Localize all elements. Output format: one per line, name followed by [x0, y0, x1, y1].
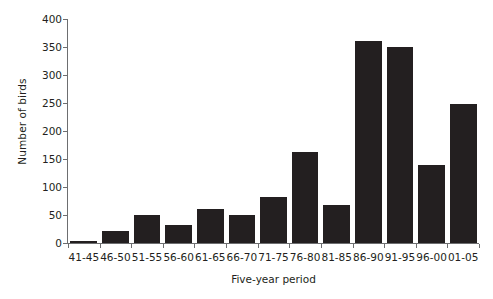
y-axis-tick-label: 300	[26, 70, 62, 81]
x-axis-tick-label: 76-80	[289, 251, 321, 263]
y-axis-tick-mark	[63, 103, 68, 104]
x-axis-tick-mark	[163, 244, 164, 248]
bar	[165, 225, 192, 243]
x-axis-title: Five-year period	[68, 273, 479, 285]
x-axis-tick-label: 01-05	[447, 251, 479, 263]
bar	[355, 41, 382, 243]
x-axis-tick-label: 46-50	[100, 251, 132, 263]
bar-chart-figure: Number of birds 050100150200250300350400…	[0, 0, 493, 299]
x-axis-tick-label: 96-00	[416, 251, 448, 263]
x-axis-tick-label: 61-65	[194, 251, 226, 263]
y-axis-tick-labels: 050100150200250300350400	[26, 0, 62, 299]
bar	[323, 205, 350, 243]
y-axis-tick-mark	[63, 131, 68, 132]
bar	[418, 165, 445, 243]
y-axis-tick-label: 200	[26, 126, 62, 137]
y-axis-tick-mark	[63, 215, 68, 216]
x-axis-line	[67, 243, 479, 244]
x-axis-tick-label: 56-60	[163, 251, 195, 263]
bar	[450, 104, 477, 243]
x-axis-tick-mark	[258, 244, 259, 248]
x-axis-tick-mark	[194, 244, 195, 248]
y-axis-tick-mark	[63, 19, 68, 20]
x-axis-tick-label: 66-70	[226, 251, 258, 263]
bar	[102, 231, 129, 243]
y-axis-tick-label: 400	[26, 14, 62, 25]
y-axis-tick-label: 150	[26, 154, 62, 165]
bar	[229, 215, 256, 243]
x-axis-tick-mark	[289, 244, 290, 248]
y-axis-tick-label: 50	[26, 210, 62, 221]
x-axis-tick-mark	[479, 244, 480, 248]
y-axis-tick-label: 100	[26, 182, 62, 193]
y-axis-tick-mark	[63, 47, 68, 48]
x-axis-tick-mark	[353, 244, 354, 248]
x-axis-tick-label: 81-85	[321, 251, 353, 263]
bar	[260, 197, 287, 243]
x-axis-tick-mark	[416, 244, 417, 248]
x-axis-tick-mark	[100, 244, 101, 248]
x-axis-tick-mark	[321, 244, 322, 248]
bar	[197, 209, 224, 243]
x-axis-tick-mark	[384, 244, 385, 248]
y-axis-tick-mark	[63, 187, 68, 188]
x-axis-tick-label: 86-90	[353, 251, 385, 263]
x-axis-tick-labels: 41-4546-5051-5556-6061-6566-7071-7576-80…	[68, 251, 479, 267]
y-axis-tick-label: 250	[26, 98, 62, 109]
x-axis-tick-label: 91-95	[384, 251, 416, 263]
y-axis-tick-label: 0	[26, 238, 62, 249]
bar	[292, 152, 319, 243]
x-axis-tick-label: 41-45	[68, 251, 100, 263]
x-axis-tick-label: 71-75	[258, 251, 290, 263]
y-axis-tick-label: 350	[26, 42, 62, 53]
x-axis-tick-label: 51-55	[131, 251, 163, 263]
x-axis-tick-mark	[68, 244, 69, 248]
bar	[387, 47, 414, 243]
bar	[70, 241, 97, 243]
x-axis-tick-mark	[131, 244, 132, 248]
y-axis-tick-mark	[63, 159, 68, 160]
bar	[134, 215, 161, 243]
x-axis-tick-mark	[447, 244, 448, 248]
y-axis-tick-mark	[63, 75, 68, 76]
x-axis-tick-mark	[226, 244, 227, 248]
plot-area	[68, 19, 479, 243]
